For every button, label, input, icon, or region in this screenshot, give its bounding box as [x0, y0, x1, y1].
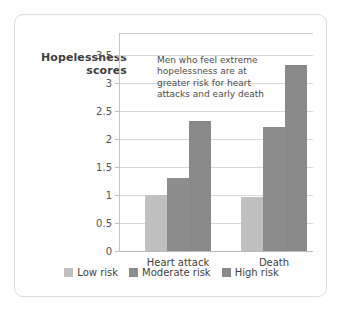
plot-area: 00.511.522.533.5 Heart attackDeath Men w… [119, 33, 313, 252]
chart-card: Hopelessness scores 00.511.522.533.5 Hea… [14, 14, 327, 297]
legend-label: High risk [235, 267, 279, 278]
annotation-line: attacks and early death [157, 89, 275, 100]
bar [285, 65, 307, 251]
y-axis-line [119, 33, 120, 252]
y-tick-mark [115, 111, 119, 112]
bar [189, 121, 211, 251]
y-tick-label: 3.5 [96, 50, 112, 61]
bar [263, 127, 285, 251]
legend-label: Low risk [77, 267, 118, 278]
y-tick-label: 0 [106, 246, 112, 257]
bar [145, 195, 167, 251]
y-tick-label: 3 [106, 78, 112, 89]
bar [167, 178, 189, 251]
legend-swatch-icon [129, 268, 138, 277]
annotation-line: Men who feel extreme [157, 55, 275, 66]
y-tick-mark [115, 55, 119, 56]
annotation-line: greater risk for heart [157, 78, 275, 89]
chart-legend: Low riskModerate riskHigh risk [15, 267, 328, 278]
annotation-line: hopelessness are at [157, 66, 275, 77]
x-axis-line [119, 251, 313, 252]
y-tick-label: 0.5 [96, 218, 112, 229]
y-tick-label: 2.5 [96, 106, 112, 117]
y-tick-mark [115, 167, 119, 168]
chart-annotation: Men who feel extremehopelessness are atg… [157, 55, 275, 101]
y-tick-label: 1 [106, 190, 112, 201]
legend-item: High risk [222, 267, 279, 278]
y-tick-label: 2 [106, 134, 112, 145]
bar [241, 197, 263, 251]
y-axis-title-line-2: scores [23, 64, 127, 77]
legend-item: Low risk [64, 267, 118, 278]
legend-swatch-icon [64, 268, 73, 277]
y-tick-mark [115, 195, 119, 196]
plot-top-border [119, 33, 313, 34]
legend-label: Moderate risk [142, 267, 211, 278]
y-tick-mark [115, 139, 119, 140]
y-tick-mark [115, 223, 119, 224]
legend-swatch-icon [222, 268, 231, 277]
legend-item: Moderate risk [129, 267, 211, 278]
y-tick-label: 1.5 [96, 162, 112, 173]
y-tick-mark [115, 83, 119, 84]
